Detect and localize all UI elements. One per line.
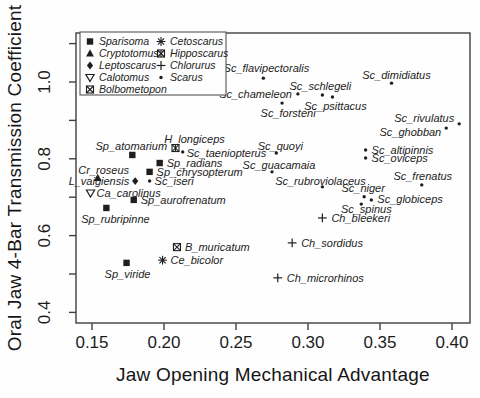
legend-symbol-Scarus [159,76,162,79]
species-label-Ch_microrhinos: Ch_microrhinos [287,272,365,284]
legend-label-Scarus: Scarus [170,71,203,83]
point-Sc_niger [362,195,365,198]
y-axis-title: Oral Jaw 4-Bar Transmission Coefficient [4,5,26,351]
x-tick-label: 0.35 [363,333,396,352]
y-tick-label: 1.0 [35,70,54,94]
species-label-Sc_frenatus: Sc_frenatus [393,170,452,182]
point-Sc_iseri [148,179,151,182]
species-label-Sc_ghobban: Sc_ghobban [379,126,441,138]
point-Sp_rubripinne [103,205,109,211]
point-Sc_schlegeli [321,93,324,96]
species-label-L_vaigiensis: L_vaigiensis [69,175,130,187]
point-Ca_carolinus [86,190,94,197]
scatter-plot: 0.150.200.250.300.350.400.40.60.81.0Sc_f… [0,0,480,398]
point-Sc_taeniopterus [181,150,184,153]
point-Sc_flavipectoralis [262,76,265,79]
point-Sp_chrysopterum [146,169,152,175]
point-Sc_rivulatus [457,122,460,125]
point-Ch_microrhinos [273,273,282,282]
point-Ce_bicolor [158,256,167,265]
species-label-H_longiceps: H_longiceps [164,133,225,145]
y-tick-label: 0.8 [35,147,54,171]
species-label-Ce_bicolor: Ce_bicolor [171,254,225,266]
x-tick-label: 0.25 [219,333,252,352]
point-H_longiceps [172,145,179,152]
y-tick-label: 0.6 [35,224,54,248]
legend-label-Bolbometopon: Bolbometopon [99,83,167,95]
species-label-Sp_viride: Sp_viride [105,268,151,280]
species-label-Sc_rivulatus: Sc_rivulatus [394,112,454,124]
legend-label-Cryptotomus: Cryptotomus [99,47,159,59]
figure: Oral Jaw 4-Bar Transmission Coefficient … [0,0,480,398]
species-label-B_muricatum: B_muricatum [185,241,250,253]
point-Sc_dimidiatus [390,81,393,84]
point-Sc_globiceps [370,198,373,201]
point-Sp_atomarium [129,152,135,158]
point-Sc_psittacus [331,95,334,98]
legend-label-Calotomus: Calotomus [99,71,150,83]
point-Sc_frenatus [420,183,423,186]
species-label-Ca_carolinus: Ca_carolinus [97,187,162,199]
point-Sc_forsteni [280,101,283,104]
legend-label-Leptoscarus: Leptoscarus [99,59,157,71]
point-Sc_altipinnis [364,148,367,151]
point-Sc_chameleon [296,92,299,95]
species-label-Sp_chrysopterum: Sp_chrysopterum [157,166,243,178]
species-label-Ch_sordidus: Ch_sordidus [301,237,363,249]
species-label-Sc_schlegeli: Sc_schlegeli [290,80,352,92]
point-L_vaigiensis [132,177,138,185]
x-tick-label: 0.30 [291,333,324,352]
x-tick-label: 0.15 [75,333,108,352]
species-label-Sp_rubripinne: Sp_rubripinne [81,213,150,225]
legend-label-Chlorurus: Chlorurus [170,59,216,71]
legend-label-Sparisoma: Sparisoma [99,35,149,47]
legend-label-Cetoscarus: Cetoscarus [170,35,224,47]
x-tick-label: 0.20 [147,333,180,352]
species-label-Sc_guacamaia: Sc_guacamaia [243,159,316,171]
point-B_muricatum [173,244,180,251]
species-label-Sc_forsteni: Sc_forsteni [261,107,317,119]
legend-symbol-Sparisoma [87,38,93,44]
point-Ch_bleekeri [318,214,327,223]
species-label-Sc_dimidiatus: Sc_dimidiatus [362,69,431,81]
point-Sp_viride [123,260,129,266]
species-label-Sc_oviceps: Sc_oviceps [372,152,429,164]
species-label-Sc_flavipectoralis: Sc_flavipectoralis [224,62,310,74]
point-Ch_sordidus [288,238,297,247]
point-Sc_ghobban [445,126,448,129]
species-label-Sc_chameleon: Sc_chameleon [219,88,292,100]
legend: SparisomaCryptotomusLeptoscarusCalotomus… [80,32,229,95]
x-axis-title: Jaw Opening Mechanical Advantage [76,364,470,386]
legend-label-Hipposcarus: Hipposcarus [170,47,229,59]
species-label-Ch_bleekeri: Ch_bleekeri [331,212,390,224]
species-label-Sp_atomarium: Sp_atomarium [96,140,168,152]
x-tick-label: 0.40 [435,333,468,352]
y-tick-label: 0.4 [35,301,54,325]
legend-symbol-Cetoscarus [157,37,166,46]
point-Sc_oviceps [364,156,367,159]
